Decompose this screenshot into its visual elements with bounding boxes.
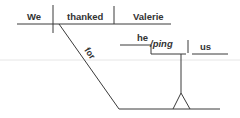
preposition-diagonal-line	[59, 24, 119, 109]
gerund-word-part1: he	[137, 32, 148, 43]
stilt-fork	[173, 93, 190, 109]
sentence-diagram: We thanked Valerie for he /ping us	[0, 0, 240, 118]
verb-word: thanked	[67, 11, 104, 22]
preposition-word: for	[82, 45, 97, 61]
gerund-object-word: us	[200, 41, 211, 52]
direct-object-word: Valerie	[133, 11, 164, 22]
subject-word: We	[27, 11, 41, 22]
gerund-word-part2: /ping	[149, 38, 173, 49]
